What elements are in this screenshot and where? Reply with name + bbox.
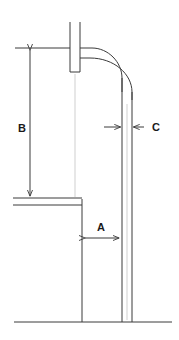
- dimension-a-label: A: [97, 221, 105, 233]
- dimension-c-label: C: [152, 121, 160, 133]
- faint-internal-lines: [75, 74, 127, 320]
- standpipe: [70, 22, 80, 72]
- dimension-diagram: B A C: [0, 0, 179, 340]
- dimension-b-label: B: [18, 122, 26, 134]
- elbow-inner-curve: [80, 48, 122, 92]
- shelf-plate: [13, 198, 82, 205]
- elbow-bend: [80, 48, 132, 100]
- diagram-canvas: B A C: [0, 0, 179, 340]
- pipe-geometry: [13, 22, 172, 322]
- elbow-outer-curve: [80, 58, 132, 100]
